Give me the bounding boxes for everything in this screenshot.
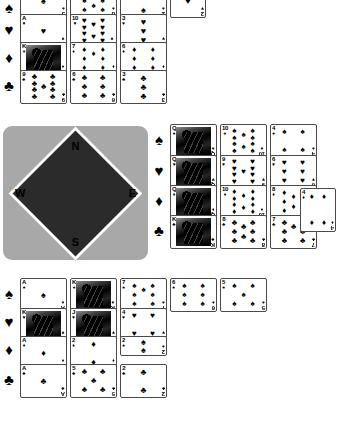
card-pip: ♠ [232, 282, 236, 290]
card-east-club-K[interactable]: K♣K♣ [170, 215, 217, 249]
card-corner-tl: A♠ [22, 280, 26, 289]
card-corner-br: 5♠ [262, 301, 265, 310]
card-pip: ♣ [241, 233, 246, 241]
card-south-spade-6[interactable]: 6♠6♠♠♠♠♠♠♠ [170, 278, 217, 312]
card-pip: ♦ [82, 46, 86, 54]
card-south-spade-K[interactable]: K♠K♠ [70, 278, 117, 312]
card-pip: ♣ [300, 237, 305, 245]
card-corner-br: 6♣ [112, 93, 115, 102]
card-pip: ♣ [100, 368, 105, 376]
card-pip-field: ♣♣ [127, 368, 160, 394]
suit-row-label: ♦ [0, 342, 18, 357]
card-suit-icon: ♠ [73, 285, 76, 289]
card-pip: ♦ [151, 46, 155, 54]
card-corner-br: A♣ [61, 387, 65, 396]
card-pip: ♦ [282, 198, 286, 206]
card-pip: ♦ [241, 204, 245, 212]
card-suit-icon: ♣ [262, 238, 265, 242]
card-pip: ♣ [82, 368, 87, 376]
card-pip: ♦ [41, 349, 46, 358]
card-pip-field: ♥ [27, 18, 60, 44]
card-pip: ♥ [185, 0, 190, 6]
card-north-club-3[interactable]: 3♣3♣♣♣♣ [120, 70, 167, 104]
card-north-club-9[interactable]: 9♣9♣♣♣♣♣♣♣♣♣♣ [20, 70, 67, 104]
card-corner-tl: 4♠ [272, 126, 275, 135]
card-corner-tl: 5♣ [72, 366, 75, 375]
card-suit-icon: ♣ [72, 77, 75, 81]
card-pip: ♥ [282, 168, 287, 176]
card-pip: ♥ [91, 33, 96, 41]
card-suit-icon: ♥ [312, 178, 315, 182]
card-pip: ♥ [150, 312, 155, 320]
card-east-spade-10[interactable]: 10♠10♠♠♠♠♠♠♠♠♠♠♠ [220, 124, 267, 158]
card-suit-icon: ♠ [212, 301, 215, 305]
card-corner-tl: 6♦ [122, 44, 125, 53]
card-suit-icon: ♠ [23, 285, 26, 289]
card-pip: ♠ [282, 146, 286, 154]
card-east-heart-9[interactable]: 9♥9♥♥♥♥♥♥♥♥♥♥ [220, 155, 267, 189]
card-south-club-5[interactable]: 5♣5♣♣♣♣♣♣ [70, 364, 117, 398]
card-corner-tl: 3♥ [122, 16, 125, 25]
card-pip-field: ♠ [27, 282, 60, 308]
card-pip: ♣ [91, 377, 96, 385]
card-south-club-A[interactable]: A♣A♣♣ [20, 364, 67, 398]
card-pip-field: ♠♠♠♠♠♠♠ [127, 282, 160, 308]
card-suit-icon: ♦ [23, 49, 26, 53]
card-east-heart-Q[interactable]: Q♥Q♥ [170, 155, 217, 189]
card-pip: ♣ [232, 219, 237, 227]
suit-row-label: ♣ [0, 372, 18, 387]
card-south-club-2[interactable]: 2♣2♣♣♣ [120, 364, 167, 398]
card-pip: ♣ [41, 83, 46, 91]
card-pip: ♣ [82, 92, 87, 100]
card-pip: ♠ [301, 128, 305, 136]
card-south-spade-7[interactable]: 7♠7♠♠♠♠♠♠♠♠ [120, 278, 167, 312]
card-corner-br: 2♣ [162, 387, 165, 396]
card-suit-icon: ♥ [111, 37, 114, 41]
card-east-heart-6[interactable]: 6♥6♥♥♥♥♥♥♥ [270, 155, 317, 189]
card-pip: ♦ [91, 339, 96, 348]
court-card-art [176, 127, 211, 155]
card-north-club-6[interactable]: 6♣6♣♣♣♣♣♣♣ [70, 70, 117, 104]
card-pip: ♠ [101, 0, 105, 5]
card-pip: ♠ [151, 291, 155, 299]
card-east-diamond-10[interactable]: 10♦10♦♦♦♦♦♦♦♦♦♦♦ [220, 185, 267, 219]
card-east-diamond-Q[interactable]: Q♦Q♦ [170, 185, 217, 219]
card-pip-field: ♥ [177, 0, 199, 14]
card-pip: ♠ [182, 300, 186, 308]
card-corner-tl: 5♠ [222, 280, 225, 289]
card-corner-tl: 4♥ [122, 310, 125, 319]
card-suit-icon: ♦ [272, 192, 275, 196]
card-suit-icon: ♦ [23, 343, 26, 347]
card-pip: ♠ [241, 131, 245, 139]
card-suit-icon: ♠ [212, 147, 215, 151]
card-north-extra-2[interactable]: 2♥2♥♥ [170, 0, 206, 18]
card-pip: ♠ [282, 128, 286, 136]
card-pip-field: ♣♣♣♣♣ [77, 368, 110, 394]
card-east-extra-4[interactable]: 4♦4♦♦♦♦♦ [300, 188, 336, 232]
card-south-diamond-2[interactable]: 2♠2♠♠♠ [120, 336, 167, 356]
suit-row-label: ♥ [0, 314, 18, 329]
card-pip: ♠ [132, 291, 136, 299]
card-pip: ♣ [250, 219, 255, 227]
card-pip: ♠ [41, 291, 46, 300]
card-suit-icon: ♣ [162, 387, 165, 391]
court-card-art [176, 188, 211, 216]
card-east-club-8[interactable]: 8♣8♣♣♣♣♣♣♣♣♣ [220, 215, 267, 249]
card-pip: ♠ [201, 282, 205, 290]
card-corner-tl: 6♠ [172, 280, 175, 289]
card-pip-field: ♠♠♠♠ [277, 128, 310, 154]
court-card-art [176, 158, 211, 186]
card-corner-tl: 9♥ [222, 157, 225, 166]
card-south-spade-A[interactable]: A♠A♠♠ [20, 278, 67, 312]
card-suit-icon: ♠ [162, 345, 165, 349]
card-east-spade-Q[interactable]: Q♠Q♠ [170, 124, 217, 158]
compass-rose[interactable]: N E S W [3, 126, 148, 260]
card-suit-icon: ♣ [211, 238, 214, 242]
card-south-spade-5[interactable]: 5♠5♠♠♠♠♠♠ [220, 278, 267, 312]
card-east-spade-4[interactable]: 4♠4♠♠♠♠♠ [270, 124, 317, 158]
card-suit-icon: ♦ [122, 49, 125, 53]
court-card-art [176, 218, 211, 246]
card-pip: ♣ [100, 74, 105, 82]
card-pip: ♠ [41, 0, 46, 6]
card-pip-field: ♠♠♠♠♠ [227, 282, 260, 308]
